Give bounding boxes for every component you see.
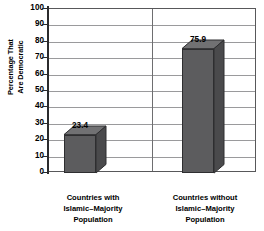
y-tick-label-50: 50 bbox=[16, 86, 44, 94]
y-tick-label-40: 40 bbox=[16, 102, 44, 110]
y-tick-label-10: 10 bbox=[16, 152, 44, 160]
bar-chart: Percentage That Are Democratic 100 90 80… bbox=[0, 0, 264, 231]
category-divider bbox=[152, 9, 153, 171]
x-category-label-1-line-1: Countries with bbox=[38, 192, 148, 203]
y-tick-label-60: 60 bbox=[16, 70, 44, 78]
y-tick-label-0: 0 bbox=[16, 168, 44, 176]
x-category-label-1-line-3: Population bbox=[38, 214, 148, 225]
x-category-label-1-line-2: Islamic–Majority bbox=[38, 203, 148, 214]
x-category-label-2-line-1: Countries without bbox=[146, 192, 264, 203]
y-tick-label-20: 20 bbox=[16, 135, 44, 143]
y-tick-label-30: 30 bbox=[16, 119, 44, 127]
y-tick-label-70: 70 bbox=[16, 53, 44, 61]
x-category-label-1: Countries with Islamic–Majority Populati… bbox=[38, 192, 148, 225]
y-tick-label-90: 90 bbox=[16, 20, 44, 28]
y-tick-label-100: 100 bbox=[16, 4, 44, 12]
y-axis-title-line-1: Percentage That bbox=[6, 7, 16, 127]
x-category-label-2: Countries without Islamic–Majority Popul… bbox=[146, 192, 264, 225]
x-category-label-2-line-2: Islamic–Majority bbox=[146, 203, 264, 214]
bar-1-value-label: 23.4 bbox=[62, 121, 98, 130]
bar-2-value-label: 75.9 bbox=[180, 35, 216, 44]
y-axis-spine bbox=[47, 6, 49, 174]
bar-2-front-face bbox=[182, 49, 214, 174]
x-category-label-2-line-3: Population bbox=[146, 214, 264, 225]
y-tick-label-80: 80 bbox=[16, 37, 44, 45]
bar-1-front-face bbox=[64, 135, 96, 173]
